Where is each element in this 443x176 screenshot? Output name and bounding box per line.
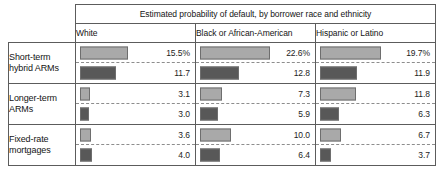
bar-lower-dark (80, 67, 116, 80)
table-header-row: White Black or African-American Hispanic… (9, 24, 436, 43)
value-label-lower: 11.9 (414, 68, 430, 78)
cell-hispanic-short-term: 19.7% 11.9 (316, 43, 436, 84)
value-label-lower: 12.8 (294, 68, 310, 78)
bar-line-upper: 6.7 (316, 125, 435, 145)
bar-upper-light (200, 46, 270, 59)
corner-cell (9, 5, 76, 24)
bar-line-lower: 6.3 (316, 104, 435, 124)
value-label-lower: 3.0 (178, 109, 190, 119)
bar-line-lower: 12.8 (196, 63, 315, 83)
bar-line-upper: 22.6% (196, 43, 315, 63)
bar-line-upper: 10.0 (196, 125, 315, 145)
table-title-row: Estimated probability of default, by bor… (9, 5, 436, 24)
bar-lower-dark (200, 108, 218, 121)
table-row: Short-term hybrid ARMs 15.5% 11.7 (9, 43, 436, 84)
bar-upper-light (80, 87, 90, 100)
cell-hispanic-fixed-rate: 6.7 3.7 (316, 125, 436, 166)
bar-lower-dark (320, 149, 331, 162)
chart-title: Estimated probability of default, by bor… (76, 5, 436, 24)
row-label-longer-term-arms: Longer-term ARMs (9, 84, 76, 125)
value-label-upper: 7.3 (298, 89, 310, 99)
bar-line-upper: 11.8 (316, 84, 435, 104)
bar-line-lower: 4.0 (76, 145, 195, 165)
value-label-upper: 3.1 (178, 89, 190, 99)
cell-white-short-term: 15.5% 11.7 (76, 43, 196, 84)
cell-black-short-term: 22.6% 12.8 (196, 43, 316, 84)
row-label-line2: ARMs (9, 104, 33, 114)
value-label-lower: 6.3 (418, 109, 430, 119)
value-label-upper: 22.6% (286, 48, 310, 58)
bar-line-upper: 7.3 (196, 84, 315, 104)
value-label-upper: 11.8 (414, 89, 430, 99)
bar-line-lower: 11.7 (76, 63, 195, 83)
table-row: Fixed-rate mortgages 3.6 4.0 (9, 125, 436, 166)
row-label-fixed-rate-mortgages: Fixed-rate mortgages (9, 125, 76, 166)
value-label-lower: 6.4 (298, 150, 310, 160)
row-label-line1: Fixed-rate (9, 134, 49, 144)
column-header-white: White (76, 24, 196, 43)
column-header-black-african-american: Black or African-American (196, 24, 316, 43)
cell-black-longer-term: 7.3 5.9 (196, 84, 316, 125)
row-label-line1: Short-term (9, 52, 51, 62)
bar-line-upper: 3.6 (76, 125, 195, 145)
bar-line-upper: 19.7% (316, 43, 435, 63)
data-table: Estimated probability of default, by bor… (8, 4, 436, 166)
value-label-upper: 6.7 (418, 130, 430, 140)
value-label-upper: 10.0 (294, 130, 310, 140)
bar-line-lower: 3.0 (76, 104, 195, 124)
row-label-line1: Longer-term (9, 93, 57, 103)
bar-lower-dark (320, 108, 339, 121)
value-label-lower: 3.7 (418, 150, 430, 160)
bar-upper-light (200, 128, 231, 141)
bar-line-lower: 11.9 (316, 63, 435, 83)
cell-hispanic-longer-term: 11.8 6.3 (316, 84, 436, 125)
bar-line-lower: 3.7 (316, 145, 435, 165)
bar-upper-light (80, 46, 128, 59)
bar-lower-dark (320, 67, 357, 80)
bar-upper-light (320, 87, 356, 100)
corner-cell-lower (9, 24, 76, 43)
value-label-upper: 19.7% (406, 48, 430, 58)
value-label-lower: 4.0 (178, 150, 190, 160)
column-header-hispanic-latino: Hispanic or Latino (316, 24, 436, 43)
value-label-upper: 3.6 (178, 130, 190, 140)
bar-lower-dark (80, 108, 89, 121)
table-row: Longer-term ARMs 3.1 3.0 (9, 84, 436, 125)
bar-upper-light (320, 128, 341, 141)
bar-upper-light (200, 87, 222, 100)
cell-black-fixed-rate: 10.0 6.4 (196, 125, 316, 166)
bar-lower-dark (200, 149, 220, 162)
cell-white-fixed-rate: 3.6 4.0 (76, 125, 196, 166)
bar-line-lower: 5.9 (196, 104, 315, 124)
row-label-short-term-hybrid-arms: Short-term hybrid ARMs (9, 43, 76, 84)
cell-white-longer-term: 3.1 3.0 (76, 84, 196, 125)
bar-line-lower: 6.4 (196, 145, 315, 165)
bar-upper-light (320, 46, 381, 59)
value-label-lower: 5.9 (298, 109, 310, 119)
bar-lower-dark (200, 67, 239, 80)
value-label-lower: 11.7 (174, 68, 190, 78)
row-label-line2: hybrid ARMs (9, 63, 59, 73)
default-probability-chart: Estimated probability of default, by bor… (0, 0, 443, 176)
bar-line-upper: 15.5% (76, 43, 195, 63)
bar-lower-dark (80, 149, 92, 162)
value-label-upper: 15.5% (166, 48, 190, 58)
bar-upper-light (80, 128, 91, 141)
bar-line-upper: 3.1 (76, 84, 195, 104)
row-label-line2: mortgages (9, 145, 51, 155)
